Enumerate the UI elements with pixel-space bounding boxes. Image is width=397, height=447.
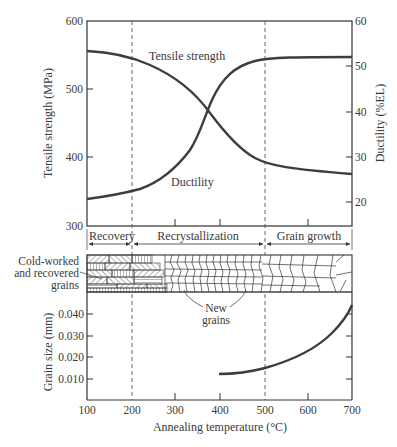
cold-worked-label: Cold-worked and recovered grains: [14, 255, 79, 292]
svg-text:grains: grains: [51, 279, 80, 292]
svg-text:200: 200: [123, 404, 141, 416]
svg-text:and recovered: and recovered: [14, 267, 79, 279]
svg-text:300: 300: [66, 220, 84, 232]
grain-size-curve: [219, 305, 352, 374]
stage-grain-growth-label: Grain growth: [277, 229, 341, 243]
ductility-curve: [87, 57, 352, 199]
svg-text:600: 600: [66, 15, 84, 27]
svg-text:grains: grains: [202, 314, 231, 327]
svg-text:60: 60: [355, 15, 367, 27]
svg-text:400: 400: [211, 404, 229, 416]
svg-text:New: New: [205, 302, 227, 314]
svg-text:20: 20: [355, 196, 367, 208]
grain-tick-labels: 0.040 0.030 0.020 0.010: [58, 308, 84, 385]
bottom-x-ticks: [175, 393, 308, 400]
bottom-plot: 0.040 0.030 0.020 0.010 Grain size (mm) …: [41, 292, 361, 434]
x-tick-labels: 100 200 300 400 500 600 700: [78, 404, 361, 416]
svg-text:400: 400: [66, 151, 84, 163]
svg-text:0.010: 0.010: [58, 373, 84, 385]
svg-text:0.030: 0.030: [58, 330, 84, 342]
grain-axis-title: Grain size (mm): [41, 313, 55, 392]
left-axis-ticks: [87, 89, 93, 157]
stage-bar: Recovery Recrystallization Grain growth: [87, 229, 352, 250]
x-axis-title: Annealing temperature (°C): [153, 420, 287, 434]
left-axis-title: Tensile strength (MPa): [41, 68, 55, 178]
svg-text:700: 700: [343, 404, 361, 416]
stage-recovery-label: Recovery: [89, 229, 135, 243]
stage-recrystallization-label: Recrystallization: [157, 229, 238, 243]
svg-text:0.040: 0.040: [58, 308, 84, 320]
svg-text:100: 100: [78, 404, 96, 416]
svg-text:500: 500: [66, 83, 84, 95]
tensile-strength-curve: [87, 51, 352, 174]
svg-text:300: 300: [166, 404, 184, 416]
left-tick-labels: 600 500 400 300: [66, 15, 84, 232]
svg-text:40: 40: [355, 106, 367, 118]
right-axis-ticks: [346, 66, 352, 202]
new-grains-label: New grains: [202, 302, 231, 327]
svg-text:0.020: 0.020: [58, 351, 84, 363]
svg-text:50: 50: [355, 60, 367, 72]
top-plot: Tensile strength Ductility 600 500 400 3…: [41, 15, 387, 400]
svg-text:Cold-worked: Cold-worked: [18, 255, 79, 267]
figure: Tensile strength Ductility 600 500 400 3…: [0, 0, 397, 447]
svg-text:600: 600: [299, 404, 317, 416]
ductility-label: Ductility: [171, 175, 214, 189]
right-tick-labels: 60 50 40 30 20: [355, 15, 367, 208]
svg-text:500: 500: [256, 404, 274, 416]
right-axis-title: Ductility (%EL): [373, 84, 387, 162]
tensile-strength-label: Tensile strength: [149, 49, 225, 63]
top-plot-x-ticks: [175, 219, 308, 226]
svg-text:30: 30: [355, 151, 367, 163]
